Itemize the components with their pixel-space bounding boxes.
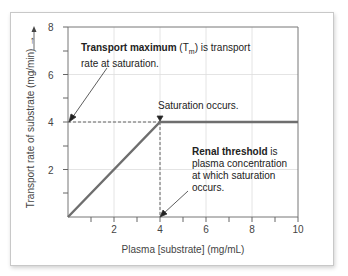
x-tick: 2	[111, 224, 117, 235]
y-tick: 2	[48, 164, 54, 175]
saturation-annotation: Saturation occurs.	[158, 100, 239, 112]
tm-post: ) is transport	[195, 42, 251, 53]
tm-bold: Transport maximum	[81, 42, 177, 53]
x-tick: 8	[249, 224, 255, 235]
y-tick: 8	[48, 22, 54, 33]
rt-bold: Renal threshold	[192, 146, 268, 157]
renal-threshold-annotation: Renal threshold is plasma concentration …	[192, 146, 287, 194]
y-axis-label: Transport rate of substrate (mg/min) →	[25, 36, 36, 208]
x-tick: 10	[292, 224, 303, 235]
rt-line2: plasma concentration	[192, 158, 287, 170]
x-tick: 4	[157, 224, 163, 235]
rt-post: is	[268, 146, 278, 157]
y-tick: 4	[48, 117, 54, 128]
y-tick: 6	[48, 69, 54, 80]
x-tick: 6	[203, 224, 209, 235]
transport-maximum-annotation: Transport maximum (Tm) is transport rate…	[81, 42, 250, 70]
rt-line4: occurs.	[192, 182, 287, 194]
tm-pre: (T	[177, 42, 189, 53]
annotation-arrows	[69, 68, 188, 217]
rt-line3: at which saturation	[192, 170, 287, 182]
x-axis-label: Plasma [substrate] (mg/mL)	[122, 244, 245, 255]
tm-line2: rate at saturation.	[81, 58, 250, 70]
